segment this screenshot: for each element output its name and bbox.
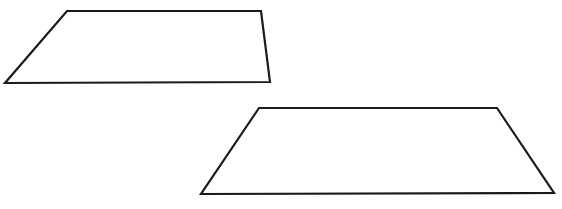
quadrilateral-2 (201, 108, 554, 194)
diagram-svg (0, 0, 562, 209)
quadrilateral-1 (5, 11, 270, 83)
diagram-canvas (0, 0, 562, 209)
